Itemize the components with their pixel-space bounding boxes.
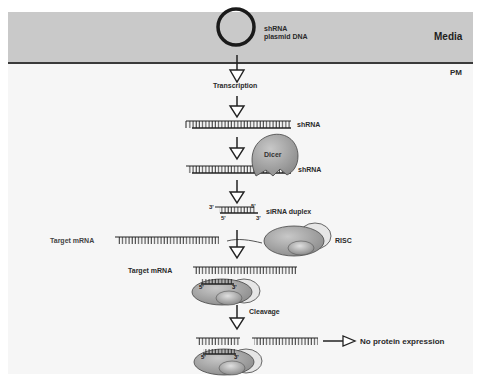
arrow-right-icon <box>323 336 355 346</box>
guide-5prime-label: 5' <box>199 284 204 291</box>
sirna-3prime-bottom: 3' <box>256 215 261 222</box>
cleaved-mrna-fragment-icon <box>252 338 318 345</box>
shrna-label: shRNA <box>298 166 321 174</box>
cleavage-label: Cleavage <box>249 308 280 316</box>
dicer-label: Dicer <box>264 151 282 159</box>
arrow-down-icon <box>230 305 244 329</box>
sirna-5prime-bottom: 5' <box>221 215 226 222</box>
risc-complex-icon <box>264 223 331 256</box>
plasmid-label-line1: shRNA <box>264 25 287 33</box>
shrna-hairpin-icon <box>186 121 291 128</box>
media-label: Media <box>434 31 462 42</box>
arrow-down-icon <box>230 137 244 159</box>
risc-guide-bound-icon <box>192 279 260 305</box>
guide-3prime-label: 3' <box>232 284 237 291</box>
plasmid-label-line2: plasmid DNA <box>264 33 308 41</box>
plasma-membrane-label: PM <box>450 68 462 77</box>
sirna-5prime-right: 5' <box>251 203 256 210</box>
target-mrna-label: Target mRNA <box>50 237 94 245</box>
sirna-duplex-label: siRNA duplex <box>266 208 311 216</box>
transcription-label: Transcription <box>213 82 257 90</box>
cleaved-5prime-label: 5' <box>201 354 206 361</box>
target-mrna-strand-icon <box>193 267 297 274</box>
target-mrna-label: Target mRNA <box>128 267 172 275</box>
cleaved-3prime-label: 3' <box>234 354 239 361</box>
risc-complex-icon <box>194 349 262 375</box>
arrow-down-icon <box>230 96 244 117</box>
shrna-label: shRNA <box>297 121 320 129</box>
arrow-down-icon <box>230 180 244 203</box>
plasmid-dna-icon <box>218 9 254 45</box>
risc-label: RISC <box>335 237 352 245</box>
sirna-3prime-left: 3' <box>209 204 214 211</box>
arrow-down-icon <box>227 230 262 258</box>
arrow-down-icon <box>230 55 244 82</box>
cleaved-mrna-fragment-icon <box>196 338 240 345</box>
target-mrna-strand-icon <box>115 237 219 244</box>
outcome-label: No protein expression <box>360 337 444 346</box>
